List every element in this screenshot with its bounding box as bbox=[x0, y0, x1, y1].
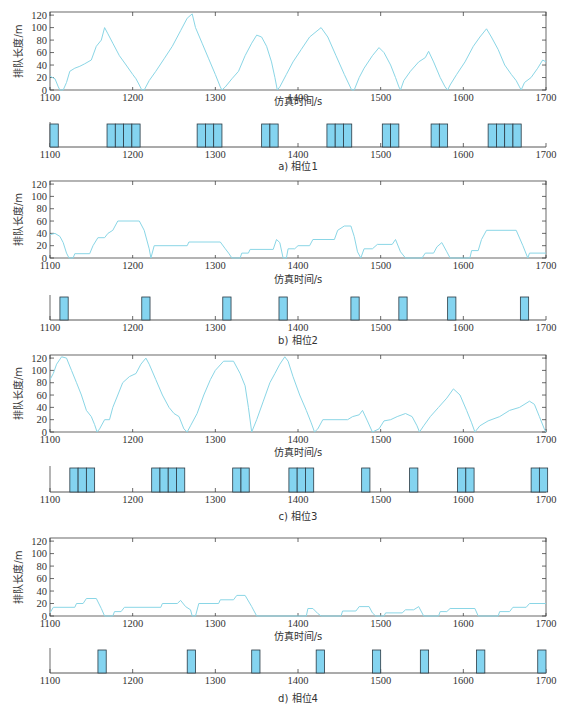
y-tick-label: 20 bbox=[37, 240, 48, 251]
bar-x-tick-label: 1700 bbox=[536, 149, 557, 160]
x-axis-label: 仿真时间/s bbox=[274, 273, 323, 285]
phase-green-bar bbox=[505, 124, 513, 147]
y-tick-label: 60 bbox=[37, 47, 48, 58]
bar-x-tick-label: 1700 bbox=[536, 494, 557, 505]
phase-green-bar bbox=[382, 124, 390, 147]
phase-green-bar bbox=[124, 124, 132, 147]
phase-green-bar bbox=[327, 124, 335, 147]
y-tick-label: 20 bbox=[37, 598, 48, 609]
bar-x-tick-label: 1300 bbox=[205, 675, 226, 686]
phase-green-bar bbox=[531, 468, 539, 492]
y-tick-label: 100 bbox=[31, 191, 47, 202]
y-tick-label: 60 bbox=[37, 216, 48, 227]
x-tick-label: 1400 bbox=[288, 434, 309, 445]
phase-green-bar bbox=[223, 297, 231, 320]
x-tick-label: 1100 bbox=[40, 434, 61, 445]
phase-green-bar bbox=[289, 468, 297, 492]
plot-frame bbox=[50, 355, 546, 432]
y-tick-label: 120 bbox=[31, 179, 47, 190]
chart-panel-a: 0204060801001201100120013001400150016001… bbox=[12, 10, 557, 172]
figure-canvas: 0204060801001201100120013001400150016001… bbox=[0, 0, 569, 712]
x-tick-label: 1400 bbox=[288, 260, 309, 271]
x-tick-label: 1200 bbox=[122, 434, 143, 445]
phase-green-bar bbox=[152, 468, 160, 492]
bar-x-tick-label: 1300 bbox=[205, 149, 226, 160]
chart-panel-c: 0204060801001201100120013001400150016001… bbox=[12, 353, 557, 522]
phase-green-bar bbox=[316, 650, 324, 673]
phase-green-bar bbox=[538, 650, 546, 673]
phase-green-bar bbox=[439, 124, 447, 147]
bar-x-tick-label: 1100 bbox=[40, 494, 61, 505]
bar-x-tick-label: 1400 bbox=[288, 149, 309, 160]
x-tick-label: 1500 bbox=[370, 618, 391, 629]
y-tick-label: 80 bbox=[37, 377, 48, 388]
y-axis-label: 排队长度/m bbox=[12, 24, 24, 77]
bar-x-tick-label: 1500 bbox=[370, 322, 391, 333]
phase-green-bar bbox=[115, 124, 123, 147]
y-tick-label: 20 bbox=[37, 414, 48, 425]
phase-green-bar bbox=[488, 124, 496, 147]
y-tick-label: 60 bbox=[37, 390, 48, 401]
bar-x-tick-label: 1200 bbox=[122, 494, 143, 505]
phase-green-bar bbox=[241, 468, 249, 492]
x-tick-label: 1700 bbox=[536, 434, 557, 445]
x-tick-label: 1600 bbox=[453, 434, 474, 445]
y-tick-label: 80 bbox=[37, 203, 48, 214]
x-tick-label: 1300 bbox=[205, 260, 226, 271]
bar-x-tick-label: 1700 bbox=[536, 322, 557, 333]
queue-length-line bbox=[50, 357, 546, 432]
x-tick-label: 1500 bbox=[370, 260, 391, 271]
bar-x-tick-label: 1600 bbox=[453, 675, 474, 686]
phase-bar-strip: 1100120013001400150016001700 bbox=[40, 648, 557, 686]
phase-green-bar bbox=[78, 468, 86, 492]
phase-green-bar bbox=[252, 650, 260, 673]
bar-x-tick-label: 1500 bbox=[370, 675, 391, 686]
phase-green-bar bbox=[262, 124, 270, 147]
phase-green-bar bbox=[132, 124, 140, 147]
x-tick-label: 1700 bbox=[536, 260, 557, 271]
y-tick-label: 60 bbox=[37, 573, 48, 584]
phase-bar-strip: 1100120013001400150016001700 bbox=[40, 122, 557, 160]
y-tick-label: 20 bbox=[37, 72, 48, 83]
phase-green-bar bbox=[539, 468, 547, 492]
panel-caption: b) 相位2 bbox=[278, 334, 318, 346]
bar-x-tick-label: 1600 bbox=[453, 149, 474, 160]
bar-x-tick-label: 1200 bbox=[122, 322, 143, 333]
bar-x-tick-label: 1400 bbox=[288, 675, 309, 686]
chart-panel-b: 0204060801001201100120013001400150016001… bbox=[12, 179, 557, 346]
phase-green-bar bbox=[305, 468, 313, 492]
chart-panel-d: 0204060801001201100120013001400150016001… bbox=[12, 536, 557, 704]
x-tick-label: 1200 bbox=[122, 92, 143, 103]
bar-x-tick-label: 1200 bbox=[122, 675, 143, 686]
x-axis-label: 仿真时间/s bbox=[274, 630, 323, 642]
queue-length-line bbox=[50, 595, 546, 616]
x-tick-label: 1100 bbox=[40, 260, 61, 271]
y-tick-label: 40 bbox=[37, 402, 48, 413]
bar-x-tick-label: 1100 bbox=[40, 675, 61, 686]
x-tick-label: 1300 bbox=[205, 434, 226, 445]
panel-caption: c) 相位3 bbox=[279, 510, 318, 522]
x-tick-label: 1700 bbox=[536, 92, 557, 103]
phase-green-bar bbox=[279, 297, 287, 320]
phase-green-bar bbox=[50, 124, 58, 147]
y-axis-label: 排队长度/m bbox=[12, 367, 24, 420]
x-axis-label: 仿真时间/s bbox=[274, 95, 323, 107]
phase-green-bar bbox=[513, 124, 521, 147]
phase-green-bar bbox=[399, 297, 407, 320]
phase-green-bar bbox=[477, 650, 485, 673]
x-axis-label: 仿真时间/s bbox=[274, 446, 323, 458]
panel-caption: a) 相位1 bbox=[278, 160, 318, 172]
phase-green-bar bbox=[351, 297, 359, 320]
phase-green-bar bbox=[335, 124, 343, 147]
phase-green-bar bbox=[448, 297, 456, 320]
bar-x-tick-label: 1300 bbox=[205, 494, 226, 505]
y-tick-label: 40 bbox=[37, 60, 48, 71]
bar-x-tick-label: 1700 bbox=[536, 675, 557, 686]
x-tick-label: 1200 bbox=[122, 260, 143, 271]
phase-green-bar bbox=[142, 297, 150, 320]
y-tick-label: 120 bbox=[31, 353, 47, 364]
queue-length-line bbox=[50, 221, 546, 258]
phase-green-bar bbox=[431, 124, 439, 147]
x-tick-label: 1400 bbox=[288, 618, 309, 629]
phase-green-bar bbox=[362, 468, 370, 492]
